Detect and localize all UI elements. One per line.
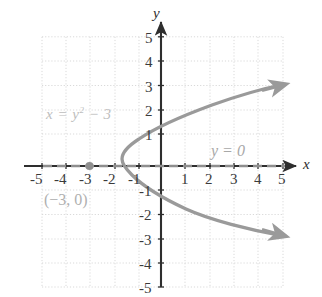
- x-tick-4: 4: [254, 172, 262, 187]
- y-zero-line-label: y = 0: [211, 143, 245, 159]
- y-tick-1: 1: [145, 128, 153, 143]
- x-tick--5: -5: [30, 172, 43, 187]
- grid-lines: [42, 37, 283, 287]
- vertex-point-label: (−3, 0): [44, 192, 88, 208]
- y-tick--4: -4: [139, 257, 152, 272]
- x-tick-1: 1: [181, 172, 189, 187]
- y-tick--1: -1: [139, 184, 152, 199]
- y-tick-3: 3: [145, 80, 153, 95]
- y-tick-5: 5: [145, 31, 153, 46]
- x-tick-5: 5: [278, 172, 286, 187]
- y-tick--2: -2: [139, 208, 152, 223]
- x-tick--4: -4: [54, 172, 67, 187]
- vertex-point-marker: [85, 162, 93, 170]
- x-tick--3: -3: [79, 172, 92, 187]
- y-tick-2: 2: [145, 104, 153, 119]
- graph-figure: y x -5 -4 -3 -2 -1 1 2 3 4 5 5 4 3 2 1 -…: [0, 0, 322, 297]
- y-tick-4: 4: [145, 55, 153, 70]
- x-tick-3: 3: [230, 172, 238, 187]
- equation-label-tail: − 3: [84, 106, 111, 122]
- x-axis-label: x: [303, 157, 310, 172]
- graph-canvas: [0, 0, 322, 297]
- x-tick-2: 2: [205, 172, 213, 187]
- axis-tick-marks: [42, 37, 283, 287]
- equation-label: x = y2 − 3: [46, 106, 112, 122]
- x-tick--2: -2: [103, 172, 116, 187]
- y-axis-label: y: [153, 6, 160, 21]
- equation-label-text: x = y: [46, 106, 79, 122]
- y-tick--3: -3: [139, 233, 152, 248]
- y-tick--5: -5: [139, 281, 152, 296]
